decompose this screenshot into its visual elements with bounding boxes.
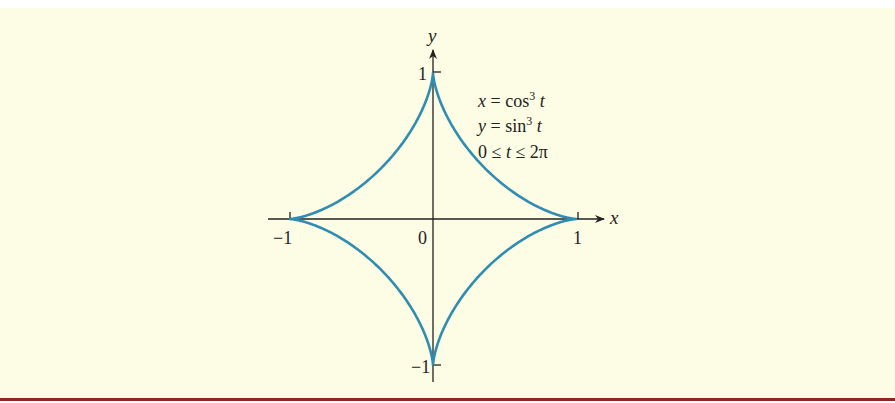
equation-block: x = cos3 t y = sin3 t 0 ≤ t ≤ 2π	[476, 89, 548, 162]
origin-label: 0	[418, 228, 427, 248]
y-tick-label-neg1: −1	[411, 357, 430, 377]
y-tick-label-1: 1	[418, 64, 427, 84]
x-axis-label: x	[609, 207, 619, 228]
svg-text:y = sin3 t: y = sin3 t	[476, 114, 543, 136]
astroid-plot: y x 1 −1 −1 1 0 x = cos3 t y = sin3 t 0 …	[0, 0, 895, 403]
x-tick-label-1: 1	[573, 228, 582, 248]
y-axis-label: y	[426, 25, 437, 46]
svg-text:x = cos3 t: x = cos3 t	[477, 89, 546, 111]
x-tick-label-neg1: −1	[273, 228, 292, 248]
svg-text:0 ≤ t ≤ 2π: 0 ≤ t ≤ 2π	[478, 142, 548, 162]
